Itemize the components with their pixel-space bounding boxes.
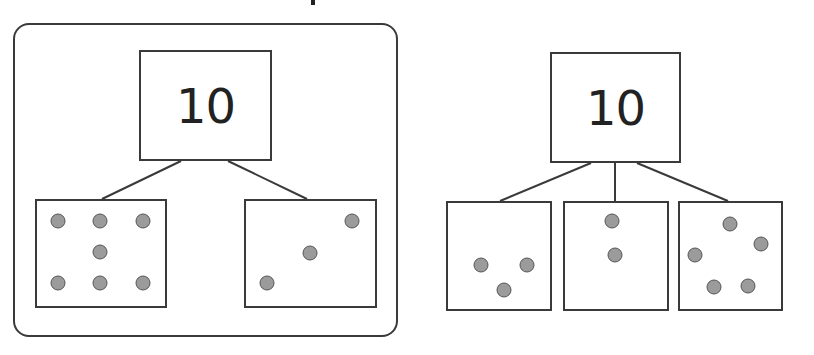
whole-box: 10 xyxy=(550,52,681,163)
counter-dot xyxy=(605,214,620,229)
counter-dot xyxy=(608,248,623,263)
counter-dot xyxy=(497,283,512,298)
connector-line xyxy=(637,163,728,201)
connector-line xyxy=(500,163,591,201)
counter-dot xyxy=(136,276,151,291)
counter-dot xyxy=(136,214,151,229)
counter-dot xyxy=(51,214,66,229)
counter-dot xyxy=(520,258,535,273)
cropped-title-fragment xyxy=(311,0,315,5)
counter-dot xyxy=(474,258,489,273)
counter-dot xyxy=(707,280,722,295)
whole-box: 10 xyxy=(139,50,272,161)
counter-dot xyxy=(741,279,756,294)
counter-dot xyxy=(93,245,108,260)
counter-dot xyxy=(260,276,275,291)
counter-dot xyxy=(688,248,703,263)
counter-dot xyxy=(303,246,318,261)
counter-dot xyxy=(51,276,66,291)
counter-dot xyxy=(723,217,738,232)
counter-dot xyxy=(754,237,769,252)
whole-value: 10 xyxy=(586,80,645,136)
counter-dot xyxy=(93,276,108,291)
counter-dot xyxy=(345,214,360,229)
counter-dot xyxy=(93,214,108,229)
whole-value: 10 xyxy=(176,78,235,134)
